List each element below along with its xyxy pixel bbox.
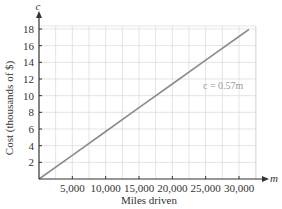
y-tick-label: 2 (29, 156, 35, 168)
line-chart: 24681012141618 5,00010,00015,00020,00025… (0, 0, 282, 209)
equation-annotation: c = 0.57m (203, 80, 244, 91)
x-tick-label: 25,000 (191, 182, 222, 194)
y-tick-label: 16 (23, 40, 35, 52)
x-tick-label: 20,000 (157, 182, 188, 194)
x-tick-label: 10,000 (91, 182, 122, 194)
x-axis-label: Miles driven (121, 194, 177, 206)
x-tick-label: 15,000 (124, 182, 155, 194)
y-axis-variable: c (36, 0, 41, 12)
x-axis-arrow-icon (262, 176, 269, 182)
y-tick-label: 12 (23, 73, 34, 85)
y-tick-label: 18 (23, 23, 35, 35)
y-tick-label: 10 (23, 90, 35, 102)
data-line (39, 29, 249, 179)
cost-line (39, 29, 249, 179)
x-axis-variable: m (270, 172, 278, 184)
x-tick-label: 30,000 (224, 182, 255, 194)
x-tick-label: 5,000 (60, 182, 85, 194)
y-axis-label: Cost (thousands of $) (3, 60, 16, 155)
y-tick-label: 6 (29, 123, 35, 135)
y-tick-label: 8 (29, 106, 35, 118)
y-axis-arrow-icon (36, 11, 42, 18)
y-tick-label: 14 (23, 56, 35, 68)
y-tick-label: 4 (29, 140, 35, 152)
